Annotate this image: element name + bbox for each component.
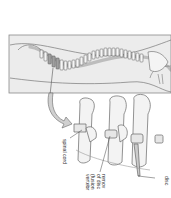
disc-pointer bbox=[138, 176, 155, 178]
removed-disc-spacer bbox=[105, 130, 117, 138]
spinal-canal-1 bbox=[74, 124, 86, 132]
label-disc: disc bbox=[164, 176, 169, 185]
zoom-arrow-icon bbox=[48, 93, 72, 128]
diagram-canvas bbox=[0, 0, 171, 198]
vertebra-3 bbox=[132, 94, 150, 167]
side-disc bbox=[155, 135, 163, 143]
label-removal-of-disc: remov of disc (fusion vertebr bbox=[84, 174, 106, 190]
spinal-fusion-diagram: spinal cord remov of disc (fusion verteb… bbox=[0, 0, 171, 198]
label-spinal-cord: spinal cord bbox=[62, 139, 67, 164]
disc bbox=[131, 134, 143, 143]
full-spine-view bbox=[9, 35, 171, 95]
process-2 bbox=[118, 125, 127, 142]
vertebrae-closeup bbox=[70, 94, 163, 178]
